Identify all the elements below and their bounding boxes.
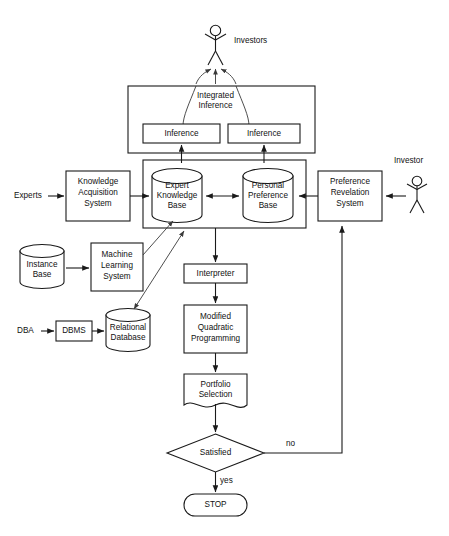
interpreter-label: Interpreter [197, 269, 235, 278]
stick-figure-icon [210, 25, 220, 35]
actor-investors: Investors [205, 25, 267, 65]
kas-label-line3: System [84, 199, 111, 208]
edge-inference-right-to-investors [221, 69, 236, 84]
satisfied-decision-diamond: Satisfied [167, 434, 264, 472]
prs-label-line2: Revelation [331, 188, 370, 197]
relational-database-label-line1: Relational [110, 323, 147, 332]
flowchart-canvas: Investors Integrated Inference Inference… [0, 0, 449, 536]
dba-label: DBA [17, 326, 34, 335]
instance-base-label-line2: Base [33, 270, 52, 279]
flowchart-diagram: Investors Integrated Inference Inference… [0, 0, 449, 536]
mls-label-line3: System [103, 272, 130, 281]
portfolio-selection-label-line1: Portfolio [200, 380, 230, 389]
expert-knowledge-base-label-line2: Knowledge [157, 191, 198, 200]
curve-inference-right [236, 86, 249, 126]
integrated-inference-label-line2: Inference [198, 101, 233, 110]
expert-knowledge-base-label-line3: Base [168, 201, 187, 210]
edge-inference-left-to-investors [196, 69, 211, 84]
personal-preference-base-label-line2: Preference [248, 191, 288, 200]
expert-knowledge-base-cylinder: Expert Knowledge Base [152, 169, 202, 223]
personal-preference-base-cylinder: Personal Preference Base [243, 169, 293, 223]
edge-label-yes: yes [220, 476, 233, 485]
inference-right-label: Inference [247, 129, 282, 138]
expert-knowledge-base-label-line1: Expert [165, 181, 189, 190]
stop-terminator: STOP [184, 494, 247, 516]
personal-preference-base-label-line1: Personal [252, 181, 284, 190]
mls-label-line2: Learning [101, 261, 133, 270]
satisfied-label: Satisfied [200, 448, 232, 457]
portfolio-selection-label-line2: Selection [199, 390, 233, 399]
portfolio-selection-document: Portfolio Selection [184, 374, 247, 407]
edge-satisfied-no-loop [264, 226, 342, 453]
stick-figure-icon [412, 176, 422, 186]
relational-database-label-line2: Database [110, 333, 145, 342]
mqp-label-line3: Programming [191, 334, 241, 343]
kas-label-line2: Acquisition [78, 188, 118, 197]
actor-investors-label: Investors [234, 36, 267, 45]
curve-inference-left [183, 86, 196, 126]
mqp-label-line1: Modified [200, 312, 231, 321]
mqp-label-line2: Quadratic [198, 323, 234, 332]
actor-investor-label: Investor [394, 156, 423, 165]
kas-label-line1: Knowledge [78, 177, 119, 186]
edge-label-no: no [286, 439, 296, 448]
instance-base-label-line1: Instance [27, 260, 58, 269]
mls-label-line1: Machine [102, 250, 133, 259]
actor-investor: Investor [394, 156, 427, 213]
dbms-label: DBMS [62, 326, 86, 335]
integrated-inference-label-line1: Integrated [197, 91, 234, 100]
relational-database-cylinder: Relational Database [106, 309, 150, 352]
instance-base-cylinder: Instance Base [20, 245, 64, 289]
prs-label-line1: Preference [330, 177, 370, 186]
prs-label-line3: System [336, 199, 363, 208]
personal-preference-base-label-line3: Base [259, 201, 278, 210]
inference-left-label: Inference [164, 129, 199, 138]
stop-label: STOP [204, 500, 227, 509]
edge-mls-to-ekb [143, 221, 173, 255]
experts-label: Experts [14, 191, 42, 200]
